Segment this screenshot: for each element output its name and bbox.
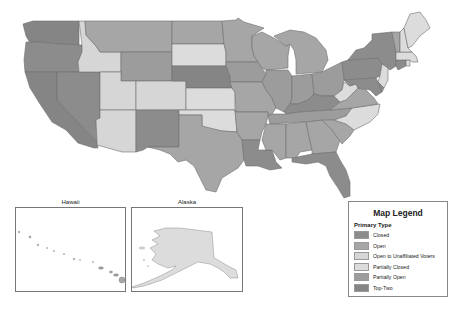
legend-item-partially-closed: Partially Closed [354,262,447,273]
state-AZ[interactable] [96,110,136,152]
legend-label: Top-Two [373,285,393,291]
legend-item-top-two: Top-Two [354,283,447,294]
state-NM[interactable] [136,110,179,152]
hawaii-map [16,208,127,293]
legend-swatch [354,273,369,281]
state-PA[interactable] [342,58,382,80]
legend-item-partially-open: Partially Open [354,272,447,283]
legend-subtitle: Primary Type [354,222,447,228]
legend-swatch [354,263,369,271]
alaska-inset [131,207,243,292]
state-CT[interactable] [396,60,406,70]
legend-swatch [354,242,369,250]
alaska-inset-title: Alaska [131,199,243,205]
state-OR[interactable] [24,42,82,72]
legend-item-closed: Closed [354,230,447,241]
state-KS[interactable] [186,88,235,110]
legend-label: Open to Unaffiliated Voters [373,253,435,259]
legend-label: Partially Open [373,274,406,280]
state-CO[interactable] [136,81,186,110]
legend-label: Closed [373,232,389,238]
legend-swatch [354,252,369,260]
legend-title: Map Legend [349,208,447,218]
state-ND[interactable] [172,21,224,44]
state-FL[interactable] [292,152,350,198]
legend-swatch [354,284,369,292]
legend-item-open: Open [354,241,447,252]
legend-label: Partially Closed [373,264,409,270]
legend-label: Open [373,243,386,249]
legend-item-open-unaffiliated: Open to Unaffiliated Voters [354,251,447,262]
state-ME[interactable] [404,12,430,48]
state-MT[interactable] [85,21,172,52]
state-HI[interactable] [18,231,125,283]
state-SD[interactable] [172,44,226,66]
hawaii-inset [15,207,126,292]
state-WA[interactable] [23,21,79,45]
hawaii-inset-title: Hawaii [15,199,126,205]
alaska-map [132,208,244,293]
state-WY[interactable] [121,52,172,81]
map-legend: Map Legend Primary Type Closed Open Open… [348,201,448,297]
state-AK[interactable] [132,228,238,288]
legend-swatch [354,231,369,239]
state-RI[interactable] [406,60,410,66]
